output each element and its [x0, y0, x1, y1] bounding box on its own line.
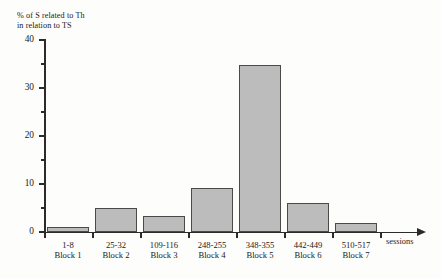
x-tick	[188, 232, 190, 238]
bar	[335, 223, 377, 232]
bar	[143, 216, 185, 232]
y-tick-minor	[41, 207, 45, 209]
x-tick	[44, 232, 46, 238]
x-tick	[380, 232, 382, 238]
x-tick	[332, 232, 334, 238]
x-tick	[236, 232, 238, 238]
x-axis-title: sessions	[386, 238, 413, 246]
y-tick-label: 40	[8, 35, 34, 44]
y-tick-major	[39, 183, 45, 185]
y-tick-major	[39, 87, 45, 89]
bar	[239, 65, 281, 232]
bar	[191, 188, 233, 232]
y-tick-major	[39, 135, 45, 137]
bar	[95, 208, 137, 232]
y-tick-minor	[41, 159, 45, 161]
y-tick-major	[39, 39, 45, 41]
x-tick	[92, 232, 94, 238]
bar	[287, 203, 329, 232]
y-tick-label: 0	[8, 227, 34, 236]
y-axis-title: % of S related to Th in relation to TS	[17, 11, 85, 30]
x-category-label: 510-517 Block 7	[325, 240, 387, 260]
x-tick	[140, 232, 142, 238]
x-tick	[284, 232, 286, 238]
bar-chart-figure: % of S related to Th in relation to TS 0…	[0, 0, 441, 279]
y-tick-label: 10	[8, 179, 34, 188]
y-tick-label: 20	[8, 131, 34, 140]
y-tick-label: 30	[8, 83, 34, 92]
y-tick-minor	[41, 63, 45, 65]
y-tick-minor	[41, 111, 45, 113]
x-axis-arrow-icon	[417, 228, 426, 236]
bar	[47, 227, 89, 232]
